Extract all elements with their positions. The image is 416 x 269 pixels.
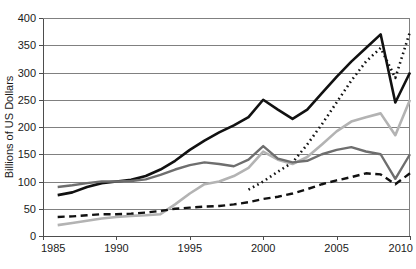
series-dashed-black bbox=[58, 173, 410, 217]
series-dark-gray bbox=[58, 146, 410, 187]
series-light-gray bbox=[58, 100, 410, 225]
y-tick-label-250: 250 bbox=[18, 94, 36, 106]
series-group bbox=[58, 32, 410, 225]
line-chart: 0501001502002503003504001985199019952000… bbox=[0, 0, 416, 269]
x-tick-label-2010: 2010 bbox=[389, 242, 413, 254]
y-tick-label-0: 0 bbox=[30, 230, 36, 242]
series-solid-black bbox=[58, 34, 410, 195]
x-tick-label-2005: 2005 bbox=[324, 242, 348, 254]
y-tick-label-400: 400 bbox=[18, 12, 36, 24]
x-tick-label-1985: 1985 bbox=[41, 242, 65, 254]
y-tick-label-200: 200 bbox=[18, 121, 36, 133]
x-tick-label-1995: 1995 bbox=[178, 242, 202, 254]
y-tick-label-50: 50 bbox=[24, 203, 36, 215]
chart-canvas: 0501001502002503003504001985199019952000… bbox=[0, 0, 416, 269]
y-tick-label-100: 100 bbox=[18, 176, 36, 188]
y-tick-label-350: 350 bbox=[18, 39, 36, 51]
y-axis-title: Billions of US Dollars bbox=[3, 75, 15, 178]
y-gridlines bbox=[43, 19, 410, 210]
y-tick-labels: 050100150200250300350400 bbox=[18, 12, 43, 242]
x-tick-label-2000: 2000 bbox=[251, 242, 275, 254]
x-tick-label-1990: 1990 bbox=[104, 242, 128, 254]
x-tick-labels: 198519901995200020052010 bbox=[41, 236, 413, 254]
y-tick-label-150: 150 bbox=[18, 148, 36, 160]
y-tick-label-300: 300 bbox=[18, 67, 36, 79]
